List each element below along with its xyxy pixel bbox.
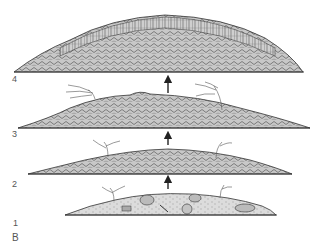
stage-3-mound: [18, 82, 310, 128]
stage-3-label: 3: [12, 130, 17, 139]
reef-growth-diagram: [0, 0, 329, 252]
stage-2-mound: [28, 140, 292, 174]
stage-2-label: 2: [12, 180, 17, 189]
stage-4-mound: [14, 15, 304, 72]
stage-1-mound: [65, 185, 277, 215]
stage-1-label: 1: [13, 219, 18, 228]
stage-4-label: 4: [12, 75, 17, 84]
panel-label: B: [12, 233, 19, 243]
